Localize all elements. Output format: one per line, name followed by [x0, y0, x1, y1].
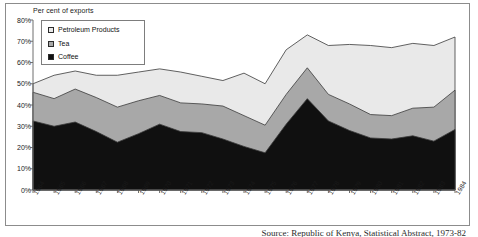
legend-item-tea: Tea — [48, 39, 139, 49]
legend-swatch-icon-petroleum-products — [48, 27, 54, 33]
legend-item-petroleum-products: Petroleum Products — [48, 25, 139, 35]
legend-swatch-icon-tea — [48, 41, 54, 47]
legend-swatch-icon-coffee — [48, 54, 54, 60]
legend-label-petroleum-products: Petroleum Products — [58, 26, 119, 34]
legend-label-coffee: Coffee — [58, 53, 79, 61]
y-axis-title: Per cent of exports — [33, 6, 94, 15]
figure-caption: Source: Republic of Kenya, Statistical A… — [5, 228, 470, 237]
y-axis-tick-labels: 0%10%20%30%40%50%60%70%80% — [0, 0, 31, 237]
figure-container: Per cent of exports 0%10%20%30%40%50%60%… — [0, 0, 478, 237]
legend-item-coffee: Coffee — [48, 52, 139, 62]
chart-legend: Petroleum Products Tea Coffee — [41, 20, 145, 65]
figure-caption-text: Source: Republic of Kenya, Statistical A… — [5, 228, 470, 237]
x-axis-tick-labels: 1964196519661967196819691970197119721973… — [33, 192, 457, 226]
legend-label-tea: Tea — [58, 40, 69, 48]
